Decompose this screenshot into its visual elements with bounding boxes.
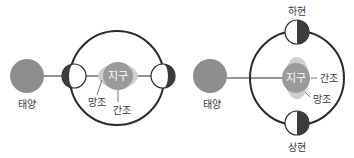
moon-top-last-quarter bbox=[285, 20, 309, 44]
moon-left-new bbox=[62, 64, 86, 88]
neap-tide-label-left: 간조 bbox=[113, 105, 131, 116]
top-moon-label: 하현 bbox=[288, 5, 306, 17]
neap-tide-label-right: 간조 bbox=[320, 73, 338, 84]
moon-right-full bbox=[151, 64, 175, 88]
sun-label-right: 태양 bbox=[203, 99, 221, 110]
spring-tide-label-right: 망조 bbox=[313, 94, 331, 105]
earth-label-left: 지구 bbox=[108, 70, 128, 83]
bottom-moon-label: 상현 bbox=[288, 142, 306, 153]
sun-right bbox=[193, 59, 227, 93]
earth-label-right: 지구 bbox=[286, 72, 306, 85]
sun-left bbox=[10, 59, 44, 93]
spring-tide-label-left: 망조 bbox=[88, 97, 106, 108]
sun-label-left: 태양 bbox=[18, 99, 36, 110]
right-diagram: 태양 지구 간조 망조 하현 상현 bbox=[193, 5, 344, 153]
left-diagram: 태양 지구 망조 간조 bbox=[10, 31, 175, 125]
moon-bottom-first-quarter bbox=[285, 111, 309, 135]
spring-tide-leader-right bbox=[305, 92, 310, 97]
spring-tide-leader-left bbox=[97, 80, 102, 95]
